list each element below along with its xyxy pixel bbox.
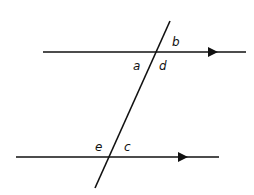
angle-label-e: e (95, 140, 102, 154)
angle-label-b: b (172, 35, 180, 49)
angle-label-d: d (159, 59, 167, 73)
parallel-lines-diagram: b a d e c (0, 0, 254, 195)
transversal-line (95, 21, 170, 188)
angle-label-c: c (124, 140, 131, 154)
upper-arrow-icon (208, 47, 218, 57)
lower-arrow-icon (178, 152, 188, 162)
angle-label-a: a (133, 59, 140, 73)
